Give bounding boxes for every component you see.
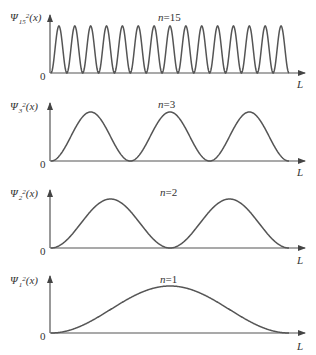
panel-n3: Ψ32(x) n=3 0 L [10, 98, 305, 178]
curve [51, 112, 289, 161]
y-axis-label: Ψ22(x) [10, 187, 38, 202]
y-axis-label: Ψ12(x) [10, 274, 38, 289]
panel-title: n=2 [160, 186, 177, 198]
panel-n2: Ψ22(x) n=2 0 L [10, 186, 305, 266]
x-axis-label: L [296, 166, 303, 178]
y-axis-label: Ψ32(x) [10, 100, 38, 115]
origin-label: 0 [40, 330, 46, 342]
curve [51, 199, 289, 248]
panel-n1: Ψ12(x) n=1 0 L [10, 273, 305, 352]
curve [51, 26, 289, 73]
origin-label: 0 [40, 70, 46, 82]
x-axis-label: L [296, 340, 303, 352]
panel-title: n=1 [160, 273, 177, 285]
origin-label: 0 [40, 158, 46, 170]
panel-n15: Ψ152(x) n=15 0 L [10, 11, 305, 90]
x-axis-label: L [296, 78, 303, 90]
probability-density-chart: Ψ152(x) n=15 0 L Ψ32(x) n=3 0 L Ψ22(x) n… [0, 0, 316, 355]
x-axis-label: L [296, 254, 303, 266]
curve [51, 286, 289, 333]
origin-label: 0 [40, 245, 46, 257]
y-axis-label: Ψ152(x) [10, 11, 42, 26]
panel-title: n=15 [158, 11, 181, 23]
panel-title: n=3 [158, 98, 176, 110]
